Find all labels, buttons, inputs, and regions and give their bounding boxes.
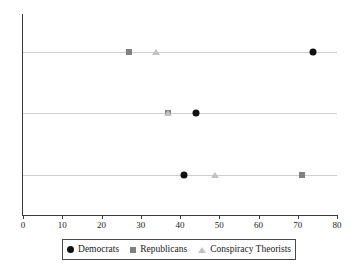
x-axis-tick-label: 60 [244,220,274,231]
data-point-circle-marker-icon [192,110,199,117]
dot-plot-chart: 01020304050607080 DemocratsIndependentsR… [0,0,355,268]
data-point-circle-marker-icon [180,172,187,179]
x-axis-tick [180,215,181,219]
legend-item-conspiracy-theorists[interactable]: Conspiracy Theorists [198,244,291,255]
x-axis-tick-label: 20 [87,220,117,231]
data-point-triangle-marker-icon [152,49,160,55]
square-marker-icon [130,247,136,253]
x-axis-tick [219,215,220,219]
x-axis-tick [102,215,103,219]
x-axis-tick [23,215,24,219]
x-axis-tick-label: 30 [126,220,156,231]
x-axis-tick-label: 50 [204,220,234,231]
x-axis-tick-label: 10 [47,220,77,231]
x-axis-tick [298,215,299,219]
x-axis-tick-label: 40 [165,220,195,231]
legend-label: Conspiracy Theorists [210,244,291,255]
x-axis-tick-label: 70 [283,220,313,231]
legend-item-democrats[interactable]: Democrats [67,244,119,255]
data-point-square-marker-icon [299,172,305,178]
category-gridline [23,52,337,53]
chart-legend: DemocratsRepublicansConspiracy Theorists [62,239,296,260]
circle-marker-icon [67,246,74,253]
data-point-triangle-marker-icon [211,172,219,178]
x-axis-tick [337,215,338,219]
legend-label: Republicans [140,244,187,255]
data-point-circle-marker-icon [310,49,317,56]
triangle-marker-icon [198,247,206,253]
x-axis-tick [259,215,260,219]
x-axis-tick [141,215,142,219]
x-axis-tick [62,215,63,219]
x-axis-tick-label: 80 [322,220,352,231]
plot-area [23,14,337,215]
legend-label: Democrats [78,244,119,255]
data-point-square-marker-icon [126,49,132,55]
legend-item-republicans[interactable]: Republicans [130,244,187,255]
x-axis-tick-label: 0 [8,220,38,231]
category-gridline [23,113,337,114]
data-point-triangle-marker-icon [164,110,172,116]
